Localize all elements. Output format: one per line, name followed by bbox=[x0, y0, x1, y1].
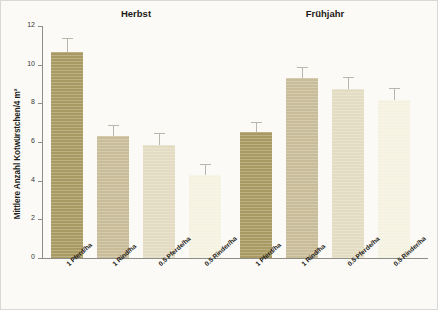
bar bbox=[143, 145, 175, 258]
error-bar bbox=[302, 67, 303, 79]
error-bar-cap bbox=[62, 38, 73, 39]
y-tick: 12 bbox=[38, 26, 42, 27]
y-tick-label: 6 bbox=[31, 137, 35, 144]
bar bbox=[51, 52, 83, 258]
bar bbox=[332, 89, 364, 258]
y-tick: 10 bbox=[38, 65, 42, 66]
error-bar-cap bbox=[389, 88, 400, 89]
y-tick: 4 bbox=[38, 181, 42, 182]
y-tick: 2 bbox=[38, 219, 42, 220]
error-bar-cap bbox=[343, 77, 354, 78]
error-bar-cap bbox=[200, 164, 211, 165]
error-bar bbox=[113, 125, 114, 137]
bar bbox=[378, 100, 410, 258]
y-tick-label: 10 bbox=[27, 60, 35, 67]
x-axis-line bbox=[42, 258, 428, 259]
bar bbox=[189, 175, 221, 258]
bar bbox=[240, 132, 272, 258]
error-bar bbox=[159, 133, 160, 145]
error-bar-cap bbox=[154, 133, 165, 134]
bar bbox=[97, 136, 129, 258]
error-bar bbox=[67, 38, 68, 53]
y-tick-label: 4 bbox=[31, 176, 35, 183]
group-title-fruehjahr: Frühjahr bbox=[240, 8, 410, 19]
y-tick-label: 12 bbox=[27, 21, 35, 28]
chart-figure: Mittlere Anzahl Kotwürstchen/4 m² 024681… bbox=[0, 0, 438, 310]
y-axis-label: Mittlere Anzahl Kotwürstchen/4 m² bbox=[13, 34, 27, 274]
error-bar-cap bbox=[297, 67, 308, 68]
bar bbox=[286, 78, 318, 258]
y-axis-line bbox=[42, 26, 43, 259]
y-tick: 8 bbox=[38, 103, 42, 104]
y-tick-label: 2 bbox=[31, 214, 35, 221]
y-tick-label: 0 bbox=[31, 253, 35, 260]
error-bar bbox=[256, 122, 257, 133]
error-bar bbox=[205, 164, 206, 175]
error-bar-cap bbox=[108, 125, 119, 126]
error-bar bbox=[348, 77, 349, 89]
group-title-herbst: Herbst bbox=[51, 8, 221, 19]
y-tick: 6 bbox=[38, 142, 42, 143]
plot-area: 024681012 HerbstFrühjahr 1 Pferd/ha1 Rin… bbox=[42, 26, 428, 258]
y-tick-label: 8 bbox=[31, 98, 35, 105]
y-tick: 0 bbox=[38, 258, 42, 259]
error-bar bbox=[394, 88, 395, 101]
error-bar-cap bbox=[251, 122, 262, 123]
